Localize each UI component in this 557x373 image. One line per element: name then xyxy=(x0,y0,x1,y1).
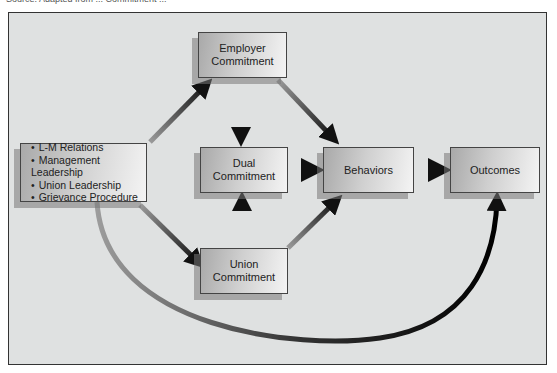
node-label: Outcomes xyxy=(470,164,520,177)
employer-commitment-box: Employer Commitment xyxy=(198,32,287,78)
behaviors-box: Behaviors xyxy=(323,147,414,193)
node-label: Employer xyxy=(211,42,273,55)
arrow-factors-to-union xyxy=(140,205,198,262)
outcomes-box: Outcomes xyxy=(450,147,540,193)
node-label: Commitment xyxy=(213,271,275,284)
factor-item: Management Leadership xyxy=(31,154,146,179)
node-label: Commitment xyxy=(211,55,273,68)
factor-item: Union Leadership xyxy=(31,179,146,192)
node-label: Union xyxy=(213,258,275,271)
union-commitment-box: Union Commitment xyxy=(200,248,288,294)
dual-commitment-box: Dual Commitment xyxy=(200,147,288,193)
arrow-factors-to-employer xyxy=(150,85,206,142)
arrow-employer-to-behaviors xyxy=(278,80,333,138)
arrow-union-to-behaviors xyxy=(288,201,336,248)
factor-item: L-M Relations xyxy=(31,141,146,154)
factors-box: L-M Relations Management Leadership Unio… xyxy=(20,143,147,202)
node-label: Dual xyxy=(213,157,275,170)
factor-item: Grievance Procedure xyxy=(31,191,146,204)
node-label: Commitment xyxy=(213,170,275,183)
factors-list: L-M Relations Management Leadership Unio… xyxy=(31,141,146,204)
node-label: Behaviors xyxy=(344,164,393,177)
